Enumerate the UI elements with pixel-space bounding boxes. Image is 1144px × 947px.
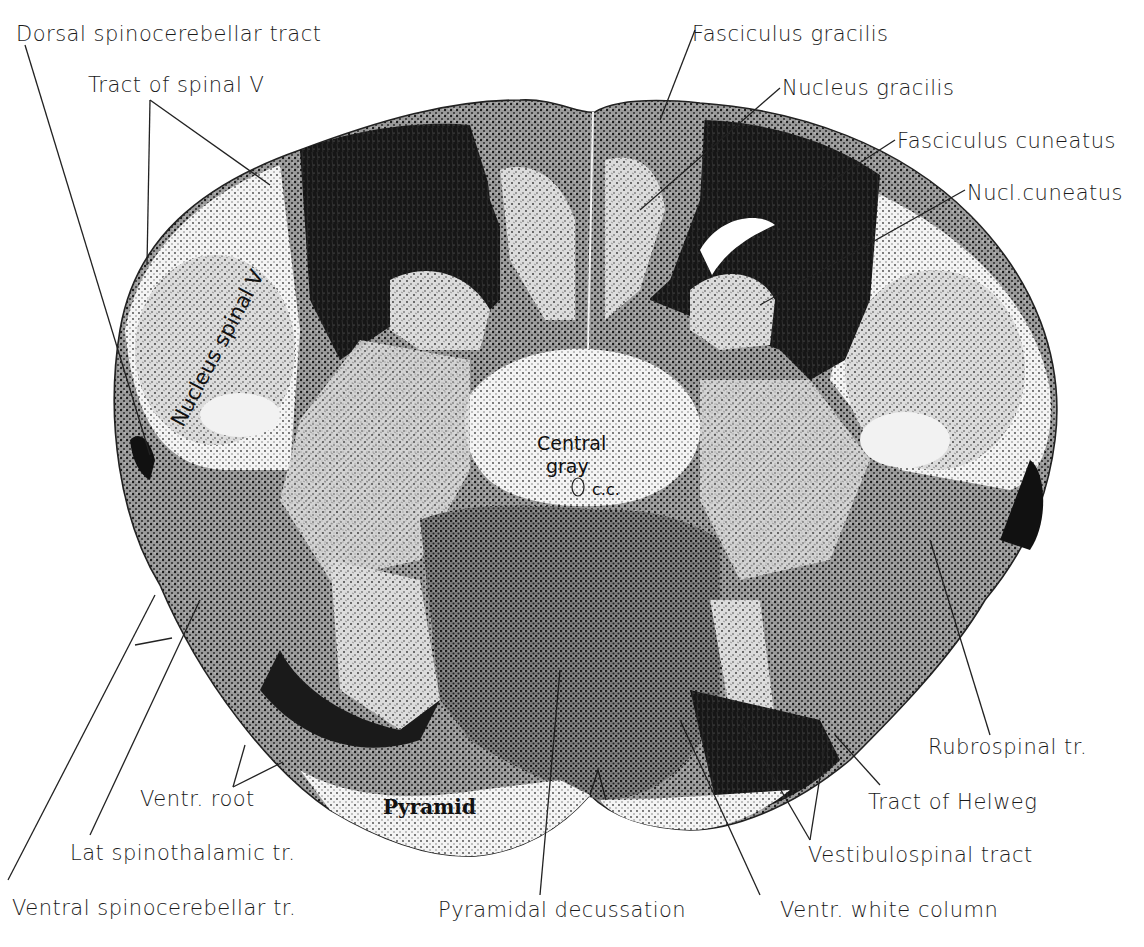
leader-ventral-spinocerebellar — [8, 595, 155, 880]
label-nucleus-gracilis: Nucleus gracilis — [782, 78, 954, 99]
right-substantia-gelatinosa — [860, 412, 950, 468]
leader-dorsal-spinocerebellar — [25, 45, 150, 455]
label-ventr-root: Ventr. root — [140, 789, 255, 810]
label-dorsal-spinocerebellar-tract: Dorsal spinocerebellar tract — [16, 24, 321, 45]
label-tract-of-helweg: Tract of Helweg — [868, 792, 1037, 813]
leader-ventr-root-a — [233, 745, 245, 787]
label-tract-of-spinal-v: Tract of spinal Ⅴ — [88, 75, 264, 96]
label-ventr-white-column: Ventr. white column — [780, 900, 998, 921]
label-central-gray-line1: Central — [537, 434, 606, 453]
leader-tract-spinal-v-a — [147, 100, 150, 265]
leader-ventr-root-b — [233, 762, 283, 787]
label-rubrospinal-tr: Rubrospinal tr. — [928, 737, 1087, 758]
label-fasciculus-cuneatus: Fasciculus cuneatus — [897, 131, 1116, 152]
label-ventral-spinocerebellar-tr: Ventral spinocerebellar tr. — [12, 898, 296, 919]
label-central-canal: c.c. — [592, 482, 620, 498]
label-lat-spinothalamic-tr: Lat spinothalamic tr. — [70, 843, 295, 864]
left-substantia-gelatinosa — [200, 393, 280, 437]
label-nucl-cuneatus: Nucl.cuneatus — [967, 183, 1123, 204]
label-vestibulospinal-tract: Vestibulospinal tract — [808, 845, 1033, 866]
label-pyramidal-decussation: Pyramidal decussation — [438, 900, 686, 921]
leader-ventral-spinocerebellar-cross — [135, 638, 172, 645]
label-pyramid: Pyramid — [383, 797, 476, 817]
leader-tract-spinal-v-b — [150, 100, 270, 185]
label-fasciculus-gracilis: Fasciculus gracilis — [692, 24, 889, 45]
label-central-gray-line2: gray — [546, 457, 589, 476]
